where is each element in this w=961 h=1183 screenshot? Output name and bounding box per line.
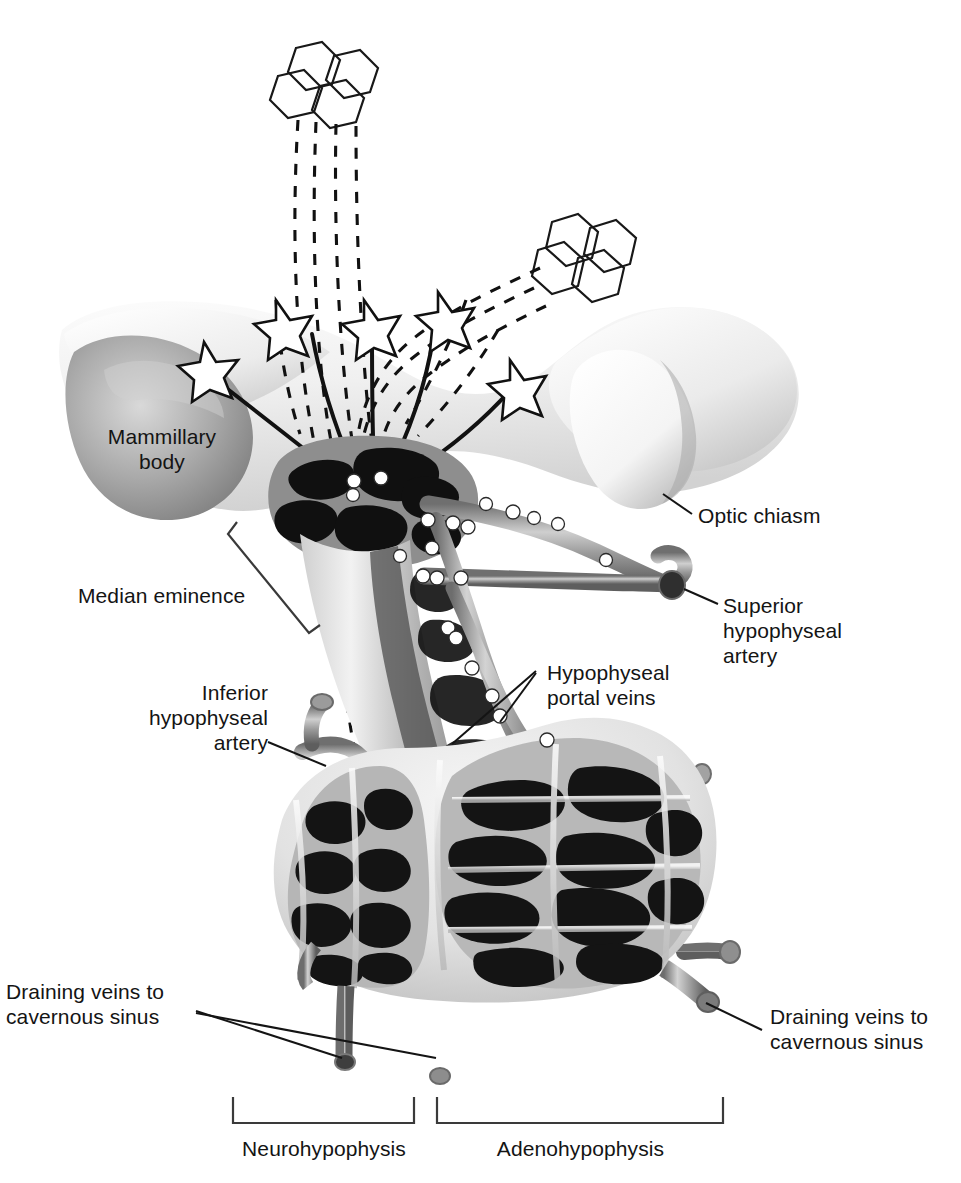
label-neurohypophysis: Neurohypophysis	[233, 1136, 415, 1161]
artery-cut-end	[659, 571, 685, 599]
label-draining-veins-left: Draining veins to cavernous sinus	[6, 979, 196, 1029]
hexagon-cell-body	[312, 80, 364, 128]
flow-marker	[552, 518, 565, 531]
flow-marker	[540, 733, 554, 747]
flow-marker	[485, 689, 499, 703]
lateral-artery-cut-end-lower	[720, 941, 740, 963]
flow-marker	[449, 631, 463, 645]
pituitary-gland-group	[274, 718, 717, 1003]
flow-marker	[416, 569, 430, 583]
adenohypophysis-bracket	[437, 1097, 723, 1123]
hexagon-cell-body	[326, 50, 378, 98]
flow-marker	[480, 498, 493, 511]
draining-vein-center-cut-end	[430, 1068, 450, 1084]
flow-marker	[506, 505, 520, 519]
flow-marker	[421, 513, 435, 527]
label-draining-veins-right: Draining veins to cavernous sinus	[770, 1004, 961, 1054]
label-inferior-hypophyseal-artery: Inferior hypophyseal artery	[58, 680, 268, 755]
flow-marker	[425, 541, 439, 555]
flow-marker	[600, 554, 613, 567]
flow-marker	[374, 471, 388, 485]
label-mammillary-body: Mammillary body	[72, 424, 252, 474]
label-hypophyseal-portal-veins: Hypophyseal portal veins	[547, 660, 767, 710]
flow-marker	[528, 512, 541, 525]
leader-superior-artery	[684, 589, 718, 604]
label-superior-hypophyseal-artery: Superior hypophyseal artery	[723, 593, 923, 668]
flow-marker	[394, 550, 407, 563]
label-optic-chiasm: Optic chiasm	[698, 503, 928, 528]
hexagon-cluster-right	[532, 214, 636, 302]
hexagon-cluster-left	[270, 42, 378, 128]
flow-marker	[454, 571, 468, 585]
draining-vein-right-cut-end	[697, 992, 719, 1012]
flow-marker	[347, 489, 360, 502]
flow-marker	[461, 520, 475, 534]
hexagon-cell-body	[584, 220, 636, 272]
leader-optic-chiasm	[663, 494, 692, 514]
flow-marker	[465, 661, 479, 675]
neurohypophysis-bracket	[233, 1097, 414, 1123]
flow-marker	[347, 474, 361, 488]
inferior-hypophyseal-artery-stub	[311, 706, 320, 744]
leader-draining-left-b	[196, 1013, 436, 1058]
label-median-eminence: Median eminence	[78, 583, 278, 608]
draining-vein-left	[344, 986, 346, 1060]
flow-marker	[430, 571, 444, 585]
leader-draining-right	[706, 1003, 762, 1030]
flow-marker	[446, 516, 460, 530]
inferior-artery-lumen	[311, 694, 333, 710]
label-adenohypophysis: Adenohypophysis	[437, 1136, 724, 1161]
